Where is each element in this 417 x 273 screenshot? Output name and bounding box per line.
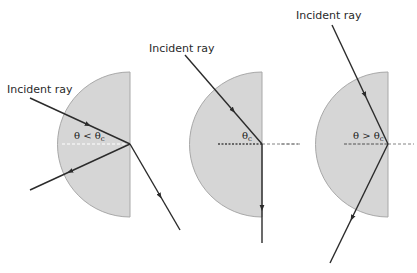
panel-at-critical: Incident ray θc	[149, 42, 302, 243]
panel-less-than-critical: Incident ray θ < θc	[7, 72, 180, 230]
refracted-ray	[130, 144, 180, 230]
incident-ray-label: Incident ray	[296, 9, 362, 22]
diagram-canvas: Incident ray θ < θc Incident ray θc Inci…	[0, 0, 417, 273]
semicircle-block	[316, 72, 389, 217]
incident-ray-label: Incident ray	[7, 83, 73, 96]
panel-greater-than-critical: Incident ray θ > θc	[281, 9, 414, 263]
incident-ray-label: Incident ray	[149, 42, 215, 55]
